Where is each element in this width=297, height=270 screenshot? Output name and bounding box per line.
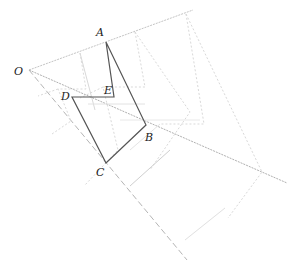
ray-o-b [29, 70, 287, 183]
diagram-svg: O A E D B C [0, 0, 297, 270]
ghost-line-2 [185, 208, 225, 240]
ghost-copy-6 [186, 14, 262, 218]
ray-o-upper [29, 10, 193, 70]
label-e: E [103, 84, 112, 97]
label-c: C [96, 166, 105, 179]
label-b: B [144, 131, 153, 144]
ghost-line-1 [130, 150, 170, 186]
ghost-copy-2 [80, 53, 95, 110]
ghost-copy-3 [85, 32, 145, 185]
ghost-copy-5 [160, 14, 204, 124]
ghost-copy-4 [135, 32, 190, 170]
ray-o-lower [29, 70, 187, 260]
polygon-abcde [72, 42, 146, 163]
geometry-diagram: O A E D B C [0, 0, 297, 270]
label-d: D [60, 90, 70, 103]
label-o: O [14, 65, 23, 78]
ghost-shapes [38, 14, 262, 240]
label-a: A [95, 26, 104, 39]
